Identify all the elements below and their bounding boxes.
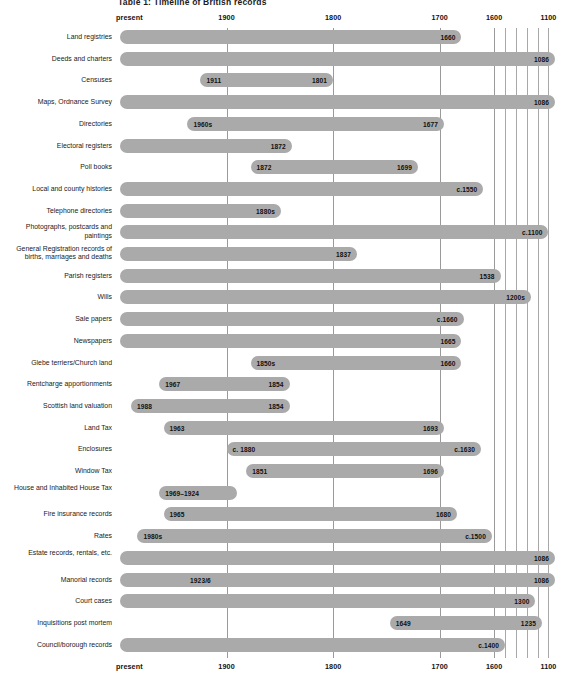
timeline-bar[interactable]: 1872 — [120, 139, 292, 153]
bar-end-value: 1086 — [534, 576, 549, 583]
timeline-bar[interactable]: 1960s1677 — [187, 117, 444, 131]
timeline-bar[interactable]: 1880s — [120, 204, 281, 218]
bar-start-value: 1965 — [170, 511, 185, 518]
timeline-row: 1660 — [120, 30, 555, 44]
axis-top-tick-1100: 1100 — [540, 13, 556, 22]
timeline-bar[interactable]: c.1550 — [120, 182, 483, 196]
axis-bottom-tick-present: present — [116, 662, 143, 671]
timeline-row: 18511696 — [120, 464, 555, 478]
timeline-row: c.1100 — [120, 225, 555, 239]
timeline-row: 1923/61086 — [120, 573, 555, 587]
bar-end-value: 1660 — [440, 34, 455, 41]
axis-top-tick-1700: 1700 — [432, 13, 448, 22]
row-label: General Registration records of births, … — [0, 245, 112, 261]
bar-start-value: 1969–1924 — [165, 489, 199, 496]
row-label-column: Land registriesDeeds and chartersCensuse… — [0, 28, 116, 658]
bar-end-value: 1680 — [436, 511, 451, 518]
bar-end-value: 1854 — [269, 381, 284, 388]
row-label: Wills — [0, 293, 112, 301]
row-label: Scottish land valuation — [0, 402, 112, 410]
bar-start-value: 1911 — [206, 77, 221, 84]
timeline-row: 19631693 — [120, 421, 555, 435]
timeline-bar[interactable]: 1086 — [120, 95, 555, 109]
row-label: Local and county histories — [0, 185, 112, 193]
row-label: Newspapers — [0, 337, 112, 345]
row-label: Court cases — [0, 597, 112, 605]
row-label: Estate records, rentals, etc. — [0, 549, 112, 557]
timeline-bar[interactable]: 19671854 — [159, 377, 290, 391]
timeline-row: 1969–1924 — [120, 486, 555, 500]
axis-top-tick-present: present — [116, 13, 143, 22]
timeline-row: 1086 — [120, 551, 555, 565]
bar-end-value: 1660 — [440, 359, 455, 366]
axis-top-tick-1800: 1800 — [325, 13, 341, 22]
timeline-bar[interactable]: 1665 — [120, 334, 461, 348]
row-label: Deeds and charters — [0, 55, 112, 63]
timeline-bar[interactable]: 19111801 — [200, 73, 333, 87]
timeline-row: 1086 — [120, 52, 555, 66]
bar-end-value: 1696 — [423, 468, 438, 475]
row-label: Sale papers — [0, 315, 112, 323]
bar-start-value: 1850s — [257, 359, 276, 366]
timeline-row: 1837 — [120, 247, 555, 261]
timeline-bar[interactable]: c.1660 — [120, 312, 464, 326]
row-label: Manorial records — [0, 576, 112, 584]
timeline-bar[interactable]: c.1100 — [120, 225, 548, 239]
row-label: Inquisitions post mortem — [0, 619, 112, 627]
timeline-bar[interactable]: 18511696 — [246, 464, 444, 478]
bar-start-value: 1988 — [137, 402, 152, 409]
bar-end-value: c.1660 — [437, 316, 458, 323]
timeline-row: 1850s1660 — [120, 356, 555, 370]
timeline-bar[interactable]: c.1400 — [120, 638, 505, 652]
timeline-row: 1665 — [120, 334, 555, 348]
bar-end-value: c.1100 — [522, 229, 542, 236]
timeline-row: 1300 — [120, 594, 555, 608]
timeline-bar[interactable]: 1850s1660 — [251, 356, 462, 370]
bar-start-value: 1967 — [165, 381, 180, 388]
timeline-row: 18721699 — [120, 160, 555, 174]
bar-end-value: 1086 — [534, 554, 549, 561]
row-label: Land Tax — [0, 424, 112, 432]
timeline-bar[interactable]: 1086 — [120, 52, 555, 66]
timeline-bar[interactable]: 19651680 — [164, 507, 458, 521]
timeline-row: 19111801 — [120, 73, 555, 87]
timeline-bar[interactable]: 1660 — [120, 30, 461, 44]
row-label: Electoral registers — [0, 142, 112, 150]
timeline-bar[interactable]: 1980sc.1500 — [137, 529, 492, 543]
bar-end-value: 1200s — [506, 294, 525, 301]
bar-end-value: c.1400 — [478, 641, 499, 648]
row-label: Parish registers — [0, 272, 112, 280]
timeline-plot-area: 166010861911180110861960s167718721872169… — [120, 28, 555, 658]
timeline-row: 1872 — [120, 139, 555, 153]
timeline-bar[interactable]: 16491235 — [390, 616, 542, 630]
row-label: Poll books — [0, 163, 112, 171]
timeline-bar[interactable]: 1300 — [120, 594, 535, 608]
figure-title: Table 1: Timeline of British records — [118, 0, 267, 7]
timeline-bar[interactable]: 1923/61086 — [120, 573, 555, 587]
bar-end-value: 1699 — [397, 164, 412, 171]
bar-start-value: 1872 — [257, 164, 272, 171]
bar-start-value: 1851 — [252, 468, 267, 475]
timeline-bar[interactable]: 18721699 — [251, 160, 418, 174]
timeline-row: c. 1880c.1630 — [120, 442, 555, 456]
timeline-bar[interactable]: 1837 — [120, 247, 357, 261]
row-label: Censuses — [0, 76, 112, 84]
timeline-bar[interactable]: 19881854 — [131, 399, 290, 413]
timeline-bar[interactable]: 1200s — [120, 290, 531, 304]
row-label: Rates — [0, 532, 112, 540]
bar-end-value: 1677 — [423, 120, 438, 127]
timeline-bar[interactable]: 1538 — [120, 269, 501, 283]
bar-start-value: c. 1880 — [233, 446, 256, 453]
timeline-row: 1086 — [120, 95, 555, 109]
bar-start-value: 1960s — [193, 120, 212, 127]
bar-end-value: 1300 — [514, 598, 529, 605]
timeline-bar[interactable]: c. 1880c.1630 — [227, 442, 481, 456]
bar-start-value: 1980s — [143, 533, 162, 540]
row-label: Photographs, postcards and paintings — [0, 223, 112, 239]
row-label: Land registries — [0, 33, 112, 41]
row-label: Rentcharge apportionments — [0, 380, 112, 388]
timeline-bar[interactable]: 1969–1924 — [159, 486, 237, 500]
timeline-bar[interactable]: 19631693 — [164, 421, 445, 435]
axis-top-tick-1600: 1600 — [486, 13, 502, 22]
timeline-bar[interactable]: 1086 — [120, 551, 555, 565]
